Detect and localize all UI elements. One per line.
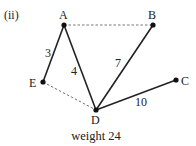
edge-a-d (64, 25, 96, 110)
node-a (61, 22, 66, 27)
node-label-d: D (91, 113, 100, 127)
edge-e-d (43, 82, 96, 110)
node-label-e: E (29, 76, 36, 90)
figure-label: (ii) (4, 8, 19, 22)
node-b (150, 22, 155, 27)
edge-weight-a-d: 4 (71, 64, 77, 78)
edge-weight-b-d: 7 (115, 56, 121, 70)
node-label-b: B (148, 8, 156, 22)
node-d (93, 107, 98, 112)
node-c (173, 77, 178, 82)
edge-weight-a-e: 3 (45, 46, 51, 60)
edge-weight-d-c: 10 (135, 95, 147, 109)
node-e (40, 79, 45, 84)
node-label-c: C (181, 74, 189, 88)
graph-diagram: A B C D E 3 4 7 10 (ii) weight 24 (0, 0, 196, 146)
node-label-a: A (59, 8, 68, 22)
caption-weight: weight 24 (71, 129, 121, 143)
